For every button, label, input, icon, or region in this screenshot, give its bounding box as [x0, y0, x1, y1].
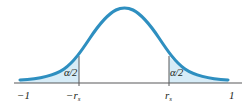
right-tail-area-label: α/2 [170, 68, 183, 79]
normal-density-curve [20, 8, 228, 80]
right-critical-subscript: s [169, 95, 172, 103]
x-tick-label-right-critical: rs [165, 90, 172, 103]
distribution-chart [0, 0, 250, 109]
left-critical-subscript: s [78, 95, 81, 103]
left-tail-area-label: α/2 [64, 68, 77, 79]
normal-curve-figure: −1 −rs rs 1 α/2 α/2 [0, 0, 250, 109]
x-tick-label-left-critical: −rs [66, 90, 80, 103]
x-tick-label-right-endpoint: 1 [229, 90, 235, 101]
x-tick-label-left-endpoint: −1 [17, 90, 30, 101]
left-critical-base: −r [66, 89, 78, 101]
